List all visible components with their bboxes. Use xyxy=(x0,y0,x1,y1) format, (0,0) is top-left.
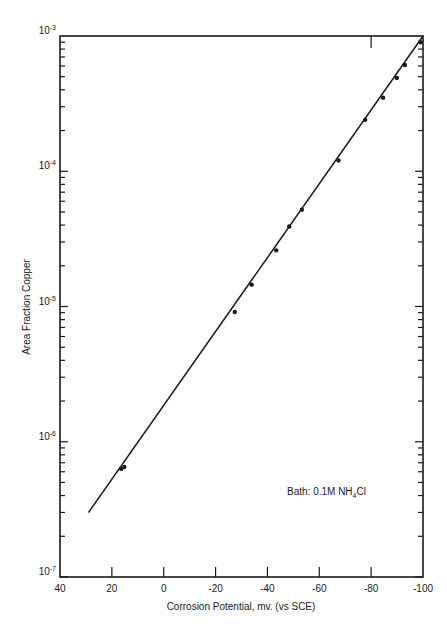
data-point xyxy=(395,76,399,80)
y-axis-ticks xyxy=(60,42,423,577)
data-point xyxy=(418,40,422,44)
y-axis-tick-labels: 10-310-410-510-610-7 xyxy=(39,24,56,577)
y-tick-label: 10-4 xyxy=(39,159,56,171)
data-point xyxy=(300,207,304,211)
y-tick-label: 10-6 xyxy=(39,430,56,442)
bath-annotation: Bath: 0.1M NH4Cl xyxy=(287,486,366,499)
annotation-suffix: Cl xyxy=(357,486,366,497)
x-tick-label: -80 xyxy=(364,583,379,594)
x-axis-title: Corrosion Potential, mv. (vs SCE) xyxy=(167,601,316,612)
x-tick-label: 0 xyxy=(161,583,167,594)
data-point xyxy=(249,282,253,286)
x-axis-tick-labels: 40200-20-40-60-80-100 xyxy=(54,583,433,594)
data-points xyxy=(119,40,423,471)
y-tick-label: 10-5 xyxy=(39,295,56,307)
plot-frame xyxy=(60,36,423,577)
y-tick-label: 10-3 xyxy=(39,24,56,36)
fit-line-segment xyxy=(89,36,423,512)
axes-box xyxy=(60,36,423,577)
y-tick-label: 10-7 xyxy=(39,565,56,577)
x-tick-label: -40 xyxy=(260,583,275,594)
fit-line xyxy=(89,36,423,512)
x-tick-label: 20 xyxy=(106,583,118,594)
chart-canvas: 10-310-410-510-610-7 40200-20-40-60-80-1… xyxy=(0,0,447,629)
x-tick-label: 40 xyxy=(54,583,66,594)
x-tick-label: -60 xyxy=(312,583,327,594)
data-point xyxy=(363,118,367,122)
x-tick-label: -20 xyxy=(208,583,223,594)
data-point xyxy=(233,310,237,314)
data-point xyxy=(274,248,278,252)
data-point xyxy=(287,224,291,228)
data-point xyxy=(381,95,385,99)
y-axis-title: Area Fraction Copper xyxy=(21,259,32,355)
data-point xyxy=(403,63,407,67)
x-tick-label: -100 xyxy=(413,583,433,594)
data-point xyxy=(122,465,126,469)
data-point xyxy=(336,158,340,162)
annotation-prefix: Bath: 0.1M NH xyxy=(287,486,353,497)
